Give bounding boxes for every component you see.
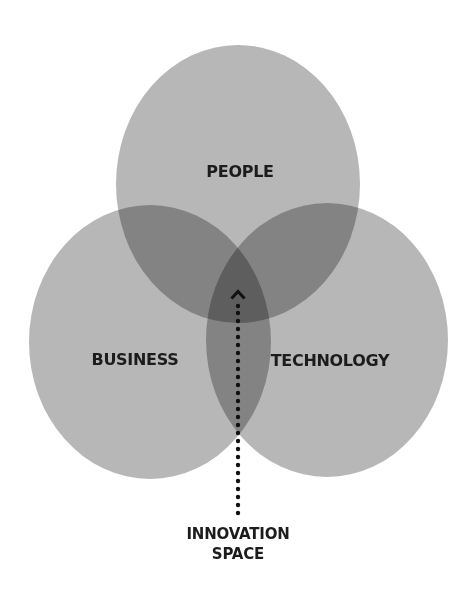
business-label: BUSINESS bbox=[85, 352, 185, 368]
venn-graphic bbox=[0, 0, 472, 596]
innovation-space-caption: INNOVATION SPACE bbox=[168, 524, 308, 564]
technology-label: TECHNOLOGY bbox=[268, 353, 392, 369]
venn-diagram: PEOPLE BUSINESS TECHNOLOGY INNOVATION SP… bbox=[0, 0, 472, 596]
caption-line-1: INNOVATION bbox=[168, 524, 308, 544]
people-label: PEOPLE bbox=[190, 164, 290, 180]
caption-line-2: SPACE bbox=[168, 544, 308, 564]
pointer-dots bbox=[236, 304, 240, 515]
technology-circle bbox=[206, 203, 448, 477]
